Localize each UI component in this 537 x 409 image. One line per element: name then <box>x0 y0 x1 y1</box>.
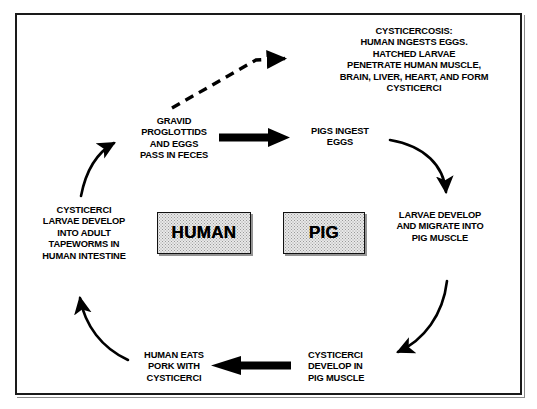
host-box-human-label: HUMAN <box>172 223 237 243</box>
stage-label-cysticerci-develop-pig-muscle: CYSTICERCI DEVELOP IN PIG MUSCLE <box>308 350 400 384</box>
stage-label-pigs-ingest-eggs: PIGS INGEST EGGS <box>294 126 386 149</box>
host-box-pig-label: PIG <box>309 223 339 243</box>
stage-label-gravid-proglottids: GRAVID PROGLOTTIDS AND EGGS PASS IN FECE… <box>126 116 222 162</box>
host-box-pig: PIG <box>283 212 365 254</box>
host-box-human: HUMAN <box>157 212 251 254</box>
stage-label-larvae-migrate-pig-muscle: LARVAE DEVELOP AND MIGRATE INTO PIG MUSC… <box>378 210 502 244</box>
stage-label-adult-tapeworm-human-intestine: CYSTICERCI LARVAE DEVELOP INTO ADULT TAP… <box>22 205 146 262</box>
stage-label-cysticercosis: CYSTICERCOSIS: HUMAN INGESTS EGGS. HATCH… <box>300 26 528 94</box>
stage-label-human-eats-pork: HUMAN EATS PORK WITH CYSTICERCI <box>130 350 218 384</box>
life-cycle-diagram: CYSTICERCOSIS: HUMAN INGESTS EGGS. HATCH… <box>0 0 537 409</box>
